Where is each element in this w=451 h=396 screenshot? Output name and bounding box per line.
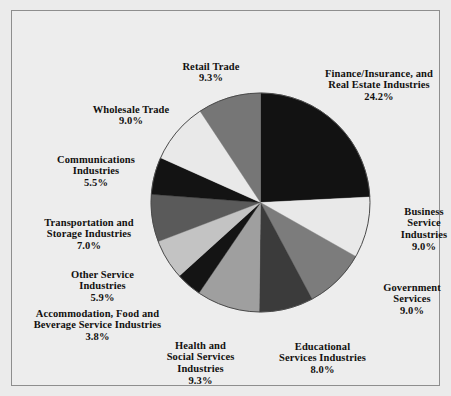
slice-label-transportation-storage-pct: 7.0%	[24, 240, 154, 252]
slice-label-health-social-services-pct: 9.3%	[148, 375, 253, 387]
slice-label-wholesale-trade-text: Wholesale Trade	[93, 104, 170, 115]
slice-label-business-service-pct: 9.0%	[386, 241, 451, 253]
slice-label-government-services-pct: 9.0%	[362, 305, 451, 317]
slice-label-communications: Communications Industries 5.5%	[34, 142, 158, 201]
pie-chart-figure: Finance/Insurance, and Real Estate Indus…	[0, 0, 451, 396]
slice-label-transportation-storage-text: Transportation and Storage Industries	[44, 217, 133, 240]
slice-label-other-service: Other Service Industries 5.9%	[44, 257, 161, 316]
slice-label-transportation-storage: Transportation and Storage Industries 7.…	[24, 205, 154, 264]
slice-label-business-service-text: Business Service Industries	[401, 206, 448, 240]
figure-frame-border: Finance/Insurance, and Real Estate Indus…	[11, 10, 440, 386]
slice-label-wholesale-trade: Wholesale Trade 9.0%	[70, 92, 192, 139]
slice-label-educational-services-pct: 8.0%	[260, 364, 385, 376]
slice-label-educational-services-text: Educational Services Industries	[279, 341, 366, 364]
slice-label-finance-text: Finance/Insurance, and Real Estate Indus…	[325, 68, 433, 91]
slice-label-other-service-text: Other Service Industries	[71, 269, 134, 292]
slice-label-finance-pct: 24.2%	[300, 91, 451, 103]
slice-label-educational-services: Educational Services Industries 8.0%	[260, 329, 385, 388]
slice-label-communications-pct: 5.5%	[34, 177, 158, 189]
slice-label-accommodation-food-beverage-pct: 3.8%	[18, 331, 177, 343]
plot-area: Finance/Insurance, and Real Estate Indus…	[12, 11, 439, 385]
slice-label-wholesale-trade-pct: 9.0%	[70, 115, 192, 127]
slice-label-business-service: Business Service Industries 9.0%	[386, 194, 451, 264]
slice-label-retail-trade: Retail Trade 9.3%	[155, 49, 267, 96]
slice-label-retail-trade-pct: 9.3%	[155, 72, 267, 84]
slice-label-other-service-pct: 5.9%	[44, 292, 161, 304]
slice-label-communications-text: Communications Industries	[57, 154, 135, 177]
slice-label-retail-trade-text: Retail Trade	[182, 61, 239, 72]
slice-label-government-services-text: Government Services	[383, 282, 441, 305]
slice-label-finance: Finance/Insurance, and Real Estate Indus…	[300, 56, 451, 115]
slice-label-government-services: Government Services 9.0%	[362, 270, 451, 329]
